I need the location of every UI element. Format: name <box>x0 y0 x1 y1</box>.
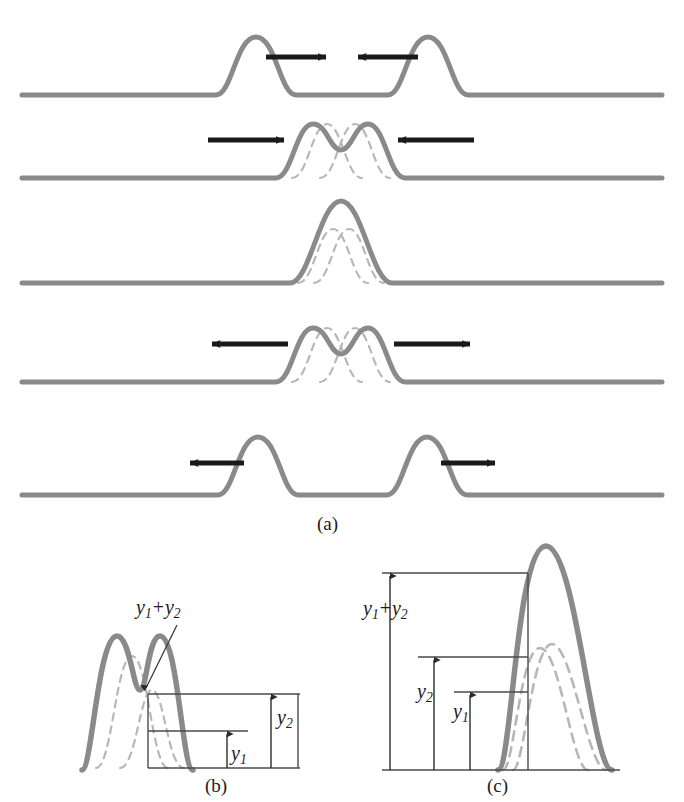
panel-b-sum-sub-a: 1 <box>145 606 152 621</box>
panel-c-sum-label: y1+y2 <box>363 597 408 623</box>
string-curve-row-1 <box>22 37 662 95</box>
panel-a-row-2 <box>22 124 662 178</box>
panel-b-sum-label: y1+y2 <box>136 596 181 622</box>
panel-b-sum-operator: + <box>152 596 165 618</box>
panel-a <box>22 37 662 495</box>
panel-c-y1-subscript: 1 <box>462 710 469 725</box>
panel-c <box>382 546 620 770</box>
wave-superposition-diagram <box>0 0 684 802</box>
panel-c-y2-label: y2 <box>417 680 433 706</box>
panel-a-row-1 <box>22 37 662 95</box>
panel-c-sum-sub-a: 1 <box>372 607 379 622</box>
panel-b <box>82 625 300 770</box>
panel-b-y1-subscript: 1 <box>240 752 247 767</box>
string-curve-row-4 <box>22 328 662 382</box>
panel-a-caption: (a) <box>317 513 338 535</box>
panel-c-sum-operator: + <box>379 597 392 619</box>
figure-root: (a) (b) (c) y1+y2 y2 y1 y1+y2 y2 y1 <box>0 0 684 802</box>
panel-c-sum-sub-b: 2 <box>401 607 408 622</box>
panel-c-sum-y-b: y <box>392 597 401 619</box>
panel-b-resultant-curve <box>82 636 193 770</box>
panel-c-resultant-curve <box>498 546 612 770</box>
panel-b-sum-y-b: y <box>165 596 174 618</box>
panel-b-y1-label: y1 <box>231 742 247 768</box>
panel-b-y2-subscript: 2 <box>286 716 293 731</box>
panel-c-caption: (c) <box>487 775 508 797</box>
panel-b-caption: (b) <box>205 775 227 797</box>
panel-c-sum-y-a: y <box>363 597 372 619</box>
panel-a-row-4 <box>22 328 662 382</box>
string-curve-row-2 <box>22 124 662 178</box>
panel-b-y2-label: y2 <box>277 706 293 732</box>
panel-a-row-5 <box>22 437 662 495</box>
string-curve-row-3 <box>22 201 662 283</box>
panel-b-y1-symbol: y <box>231 742 240 764</box>
panel-c-y2-subscript: 2 <box>426 690 433 705</box>
panel-a-row-3 <box>22 201 662 283</box>
panel-b-y2-symbol: y <box>277 706 286 728</box>
panel-c-y1-symbol: y <box>453 700 462 722</box>
panel-b-sum-sub-b: 2 <box>174 606 181 621</box>
panel-b-sum-y-a: y <box>136 596 145 618</box>
string-curve-row-5 <box>22 437 662 495</box>
panel-c-y2-symbol: y <box>417 680 426 702</box>
panel-c-y1-label: y1 <box>453 700 469 726</box>
